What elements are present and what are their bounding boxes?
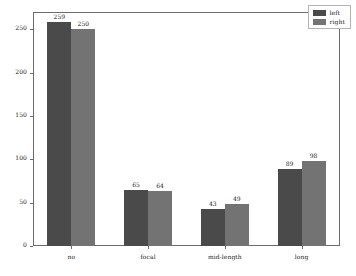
bar-value-label: 49 (233, 195, 241, 202)
bar-chart-figure: 050100150200250 259250656443498998 nofoc… (0, 0, 356, 276)
x-axis: nofocalmid-lengthlong (33, 246, 340, 276)
legend-label: left (330, 9, 341, 16)
x-axis-tick-mark (302, 246, 303, 249)
x-axis-tick-mark (225, 246, 226, 249)
y-axis-tick-label: 0 (23, 241, 27, 248)
y-axis-tick-label: 250 (15, 24, 27, 31)
y-axis-tick-label: 50 (19, 198, 27, 205)
bar: 250 (71, 29, 95, 246)
bar-value-label: 250 (77, 20, 89, 27)
bar-value-label: 259 (53, 13, 65, 20)
bar: 259 (47, 22, 71, 246)
y-axis-tick-label: 150 (15, 111, 27, 118)
x-axis-tick-label: focal (141, 253, 156, 260)
bar: 64 (148, 191, 172, 246)
legend-swatch-icon (313, 19, 326, 25)
x-axis-tick-mark (71, 246, 72, 249)
legend-entry: left (313, 9, 345, 16)
bar-value-label: 89 (286, 160, 294, 167)
x-axis-tick-label: no (68, 253, 76, 260)
legend-swatch-icon (313, 10, 326, 16)
x-axis-tick-label: long (295, 253, 309, 260)
bars-layer: 259250656443498998 (33, 12, 340, 246)
x-axis-tick-label: mid-length (208, 253, 242, 260)
y-axis-tick-label: 200 (15, 68, 27, 75)
bar: 49 (225, 204, 249, 246)
bar: 89 (278, 169, 302, 246)
chart-legend: leftright (308, 5, 351, 29)
legend-label: right (330, 18, 345, 25)
bar-value-label: 43 (209, 200, 217, 207)
legend-entry: right (313, 18, 345, 25)
bar: 98 (302, 161, 326, 246)
y-axis: 050100150200250 (0, 12, 33, 247)
bar-value-label: 64 (156, 182, 164, 189)
y-axis-tick-label: 100 (15, 154, 27, 161)
bar: 65 (124, 190, 148, 246)
bar-value-label: 98 (310, 152, 318, 159)
bar-value-label: 65 (132, 181, 140, 188)
bar: 43 (201, 209, 225, 246)
x-axis-tick-mark (148, 246, 149, 249)
